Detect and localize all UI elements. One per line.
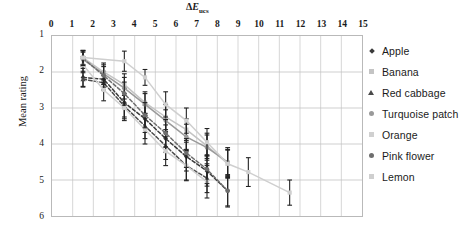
y-tick-label: 1 (30, 28, 44, 41)
x-tick-label: 6 (167, 18, 185, 30)
legend-label: Red cabbage (382, 87, 446, 99)
legend-item-pink-flower[interactable]: Pink flower (366, 145, 474, 166)
data-point-marker (225, 189, 230, 194)
data-point-marker (164, 149, 168, 153)
legend-marker-icon (366, 87, 377, 98)
legend-item-lemon[interactable]: Lemon (366, 166, 474, 187)
legend-item-red-cabbage[interactable]: Red cabbage (366, 82, 474, 103)
x-tick-label: 4 (125, 18, 143, 30)
y-tick-label: 3 (30, 101, 44, 114)
y-tick-label: 2 (30, 64, 44, 77)
data-point-marker (184, 119, 188, 123)
legend-marker-icon (366, 150, 377, 161)
y-axis-title: Mean rating (17, 62, 28, 142)
data-point-marker (143, 75, 147, 79)
data-point-marker (205, 140, 209, 144)
data-point-marker (81, 56, 85, 60)
data-point-marker (226, 162, 230, 166)
legend-item-banana[interactable]: Banana (366, 61, 474, 82)
x-axis-title-symbol: E (192, 1, 199, 12)
legend-item-apple[interactable]: Apple (366, 40, 474, 61)
legend-marker-icon (366, 108, 377, 119)
x-tick-label: 12 (292, 18, 310, 30)
x-tick-label: 10 (250, 18, 268, 30)
x-tick-label: 13 (312, 18, 330, 30)
data-layer (52, 36, 362, 216)
x-tick-label: 0 (42, 18, 60, 30)
data-point-marker (288, 191, 292, 195)
y-tick-label: 4 (30, 137, 44, 150)
x-tick-label: 15 (354, 18, 372, 30)
series-lemon (81, 50, 292, 205)
data-point-marker (101, 73, 106, 78)
data-point-marker (102, 88, 106, 92)
legend-label: Turquoise patch (382, 108, 458, 120)
legend-label: Lemon (382, 171, 415, 183)
legend-label: Apple (382, 45, 409, 57)
data-point-marker (122, 106, 126, 110)
x-tick-label: 7 (188, 18, 206, 30)
legend-label: Pink flower (382, 150, 434, 162)
x-tick-label: 8 (208, 18, 226, 30)
plot-area (51, 35, 363, 217)
x-tick-label: 11 (271, 18, 289, 30)
legend-item-orange[interactable]: Orange (366, 124, 474, 145)
data-point-marker (246, 170, 250, 174)
y-tick-label: 5 (30, 174, 44, 187)
x-axis-title-subscript: ucs (199, 7, 209, 15)
x-tick-label: 1 (63, 18, 81, 30)
series-line (83, 77, 228, 190)
x-tick-label: 2 (84, 18, 102, 30)
chart-container: ΔEucs Mean rating 0123456789101112131415… (0, 0, 360, 231)
legend-item-turquoise-patch[interactable]: Turquoise patch (366, 103, 474, 124)
x-tick-label: 14 (333, 18, 351, 30)
data-point-marker (163, 131, 168, 136)
series-banana (81, 50, 230, 177)
x-tick-label: 5 (146, 18, 164, 30)
legend: AppleBananaRed cabbageTurquoise patchOra… (366, 40, 474, 187)
data-point-marker (143, 113, 148, 118)
data-point-marker (184, 151, 189, 156)
legend-marker-icon (366, 45, 377, 56)
data-point-marker (122, 59, 126, 63)
legend-label: Banana (382, 66, 419, 78)
y-tick-label: 6 (30, 210, 44, 223)
x-tick-label: 9 (229, 18, 247, 30)
legend-marker-icon (366, 66, 377, 77)
data-point-marker (205, 167, 210, 172)
data-point-marker (164, 102, 168, 106)
legend-marker-icon (366, 171, 377, 182)
legend-label: Orange (382, 129, 418, 141)
data-point-marker (122, 91, 127, 96)
x-axis-title: ΔEucs (186, 1, 209, 15)
legend-marker-icon (366, 129, 377, 140)
x-tick-label: 3 (104, 18, 122, 30)
